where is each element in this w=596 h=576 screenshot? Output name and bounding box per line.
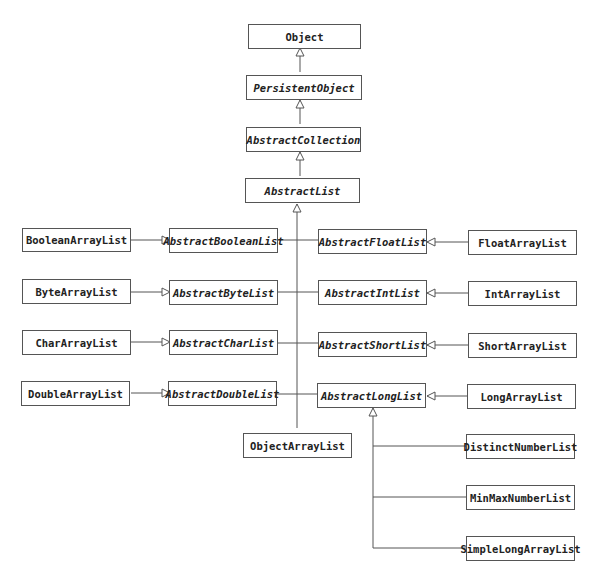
- class-abstract-list: AbstractList: [245, 178, 360, 203]
- arrowhead-icon: [293, 204, 301, 212]
- class-simple-long-array-list: SimpleLongArrayList: [466, 536, 575, 561]
- class-min-max-number-list: MinMaxNumberList: [466, 485, 575, 510]
- class-abstract-int-list: AbstractIntList: [318, 280, 427, 305]
- class-diagram: Object PersistentObject AbstractCollecti…: [0, 0, 596, 576]
- arrowhead-icon: [427, 289, 435, 297]
- class-byte-array-list: ByteArrayList: [22, 279, 131, 304]
- class-abstract-long-list: AbstractLongList: [317, 383, 426, 408]
- arrowhead-icon: [369, 408, 377, 416]
- arrowhead-icon: [427, 341, 435, 349]
- class-abstract-float-list: AbstractFloatList: [318, 229, 427, 254]
- class-persistent-object: PersistentObject: [246, 75, 362, 100]
- class-abstract-boolean-list: AbstractBooleanList: [169, 228, 278, 253]
- class-abstract-collection: AbstractCollection: [246, 127, 361, 152]
- class-double-array-list: DoubleArrayList: [21, 381, 130, 406]
- class-abstract-char-list: AbstractCharList: [169, 330, 278, 355]
- arrowhead-icon: [296, 100, 304, 108]
- arrowhead-icon: [296, 152, 304, 160]
- class-char-array-list: CharArrayList: [22, 330, 131, 355]
- class-abstract-byte-list: AbstractByteList: [169, 280, 278, 305]
- arrowhead-icon: [427, 238, 435, 246]
- class-distinct-number-list: DistinctNumberList: [466, 434, 575, 459]
- class-int-array-list: IntArrayList: [468, 281, 577, 306]
- class-abstract-double-list: AbstractDoubleList: [168, 381, 277, 406]
- class-object-array-list: ObjectArrayList: [243, 433, 352, 458]
- class-short-array-list: ShortArrayList: [468, 333, 577, 358]
- class-float-array-list: FloatArrayList: [468, 230, 577, 255]
- class-boolean-array-list: BooleanArrayList: [22, 228, 131, 252]
- class-long-array-list: LongArrayList: [467, 384, 576, 409]
- class-abstract-short-list: AbstractShortList: [318, 332, 427, 357]
- class-object: Object: [248, 24, 361, 49]
- arrowhead-icon: [296, 48, 304, 56]
- arrowhead-icon: [427, 392, 435, 400]
